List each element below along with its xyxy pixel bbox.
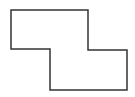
diagram-canvas xyxy=(0,0,135,97)
s-shaped-polygon xyxy=(11,10,127,90)
